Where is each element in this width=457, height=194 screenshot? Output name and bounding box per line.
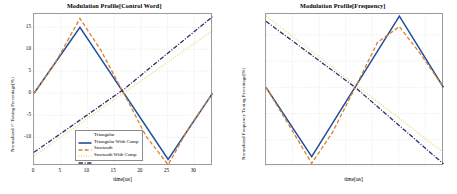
x-tick-label: 15 xyxy=(106,167,120,173)
y-tick-label: 15 xyxy=(11,23,31,29)
y-tick-label: 0 xyxy=(11,89,31,95)
legend-line-swatch-icon xyxy=(78,132,92,138)
y-axis-label-frequency: Normalized Frequency Tuning Percentage[%… xyxy=(241,68,246,160)
x-axis-label-control-word: time[us] xyxy=(33,176,212,182)
y-tick-label: -5 xyxy=(11,111,31,117)
legend-line-swatch-icon xyxy=(78,152,92,158)
x-tick-label: 10 xyxy=(79,167,93,173)
legend-item-label: Sawtooth With Comp xyxy=(94,152,136,158)
chart-panel-control-word: Modulation Profile[Control Word] Normali… xyxy=(0,0,229,194)
legend-item[interactable]: Sawtooth xyxy=(78,145,140,152)
x-tick-label: 0 xyxy=(26,167,40,173)
legend-item[interactable]: Triangular xyxy=(78,132,140,139)
x-axis-label-frequency: time[us] xyxy=(265,176,443,182)
series-line xyxy=(266,21,443,164)
y-tick-label: 5 xyxy=(11,67,31,73)
legend-item[interactable]: Sawtooth With Comp xyxy=(78,152,140,159)
y-tick-label: -10 xyxy=(11,133,31,139)
plot-area-frequency xyxy=(265,13,443,165)
y-tick-label: 10 xyxy=(11,45,31,51)
chart-title-control-word: Modulation Profile[Control Word] xyxy=(0,2,229,9)
legend-item-label: Triangular xyxy=(94,132,114,138)
x-tick-label: 5 xyxy=(53,167,67,173)
legend-item-label: Sawtooth xyxy=(94,145,112,151)
legend-item[interactable]: Triangular With Comp xyxy=(78,139,140,146)
x-tick-label: 20 xyxy=(133,167,147,173)
legend-item-label: Triangular With Comp xyxy=(94,139,138,145)
figure-container: Modulation Profile[Control Word] Normali… xyxy=(0,0,457,194)
chart-title-frequency: Modulation Profile[Frequency] xyxy=(229,2,457,9)
chart-panel-frequency: Modulation Profile[Frequency] Normalized… xyxy=(229,0,457,194)
x-tick-label: 30 xyxy=(186,167,200,173)
legend-control-word: TriangularTriangular With CompSawtoothSa… xyxy=(75,130,143,161)
legend-line-swatch-icon xyxy=(78,145,92,151)
plot-svg-frequency xyxy=(266,14,444,166)
series-line xyxy=(266,27,443,164)
legend-line-swatch-icon xyxy=(78,139,92,145)
x-tick-label: 25 xyxy=(160,167,174,173)
